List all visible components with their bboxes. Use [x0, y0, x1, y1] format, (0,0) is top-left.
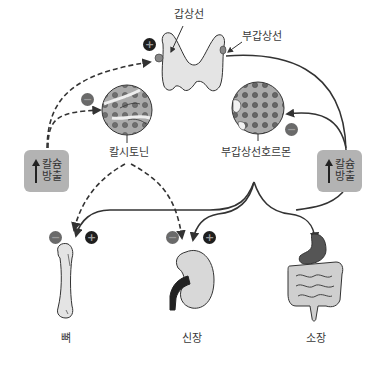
parathyroid-label: 부갑상선 [242, 31, 282, 43]
kidney-minus-icon: − [166, 231, 179, 244]
calcium-release-box-right: 칼슘 방출 [317, 150, 362, 192]
thyroid-plus-icon: + [143, 38, 156, 51]
bone-label: 뼈 [61, 333, 71, 345]
calcitonin-minus-icon: − [81, 93, 94, 106]
box-left-line2: 방출 [42, 171, 62, 183]
box-right-line2: 방출 [335, 171, 355, 183]
bone-minus-icon: − [49, 231, 62, 244]
pth-minus-icon: − [285, 123, 298, 136]
pth-cell-icon [232, 82, 284, 134]
bone-plus-icon: + [85, 231, 98, 244]
calcium-release-box-left: 칼슘 방출 [24, 150, 69, 192]
intestine-icon [288, 234, 343, 321]
pth-label: 부갑상선호르몬 [221, 147, 291, 159]
thyroid-label: 갑상선 [174, 9, 204, 21]
thyroid-gland-icon [155, 33, 226, 91]
calcium-regulation-diagram: 갑상선 부갑상선 칼시토닌 부갑상선호르몬 뼈 신장 소장 칼슘 방출 칼슘 방… [0, 0, 391, 368]
up-arrow-icon [325, 159, 333, 183]
up-arrow-icon [32, 159, 40, 183]
intestine-label: 소장 [306, 333, 326, 345]
calcitonin-label: 칼시토닌 [109, 147, 149, 159]
kidney-plus-icon: + [203, 231, 216, 244]
calcitonin-cell-icon [102, 85, 152, 135]
kidney-label: 신장 [182, 333, 202, 345]
bone-icon [57, 243, 72, 318]
kidney-icon [170, 250, 214, 310]
